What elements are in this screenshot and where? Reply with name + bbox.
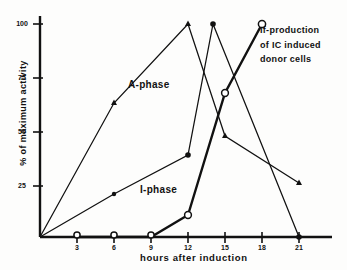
x-tick-label-15: 15 bbox=[215, 244, 235, 251]
series-if-production-markers bbox=[74, 20, 266, 238]
annotation-if-line-2: of IC induced bbox=[260, 38, 321, 53]
annotation-a-phase: A-phase bbox=[128, 79, 170, 90]
annotation-if-line-3: donor cells bbox=[260, 52, 321, 67]
figure-chart: 100 75 50 25 3 6 9 12 15 18 21 % of maxi… bbox=[0, 0, 347, 270]
y-axis-title: % of maximum activity bbox=[18, 38, 28, 188]
x-tick-label-9: 9 bbox=[141, 244, 161, 251]
x-tick-label-3: 3 bbox=[67, 244, 87, 251]
y-tick-label-100: 100 bbox=[12, 20, 32, 27]
annotation-if-production: If-production of IC induced donor cells bbox=[260, 23, 321, 67]
annotation-i-phase: I-phase bbox=[140, 184, 177, 195]
x-axis-title: hours after induction bbox=[140, 252, 248, 263]
x-tick-label-6: 6 bbox=[104, 244, 124, 251]
annotation-if-line-1: If-production bbox=[260, 23, 321, 38]
x-tick-label-12: 12 bbox=[178, 244, 198, 251]
x-tick-label-18: 18 bbox=[252, 244, 272, 251]
series-if-production-line bbox=[77, 24, 262, 237]
y-axis-ticks bbox=[33, 24, 43, 186]
x-tick-label-21: 21 bbox=[289, 244, 309, 251]
